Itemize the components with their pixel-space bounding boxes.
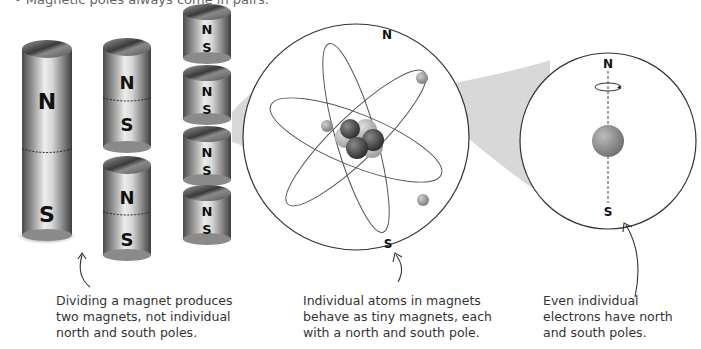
small-4-south-label: S [202, 222, 211, 237]
long-magnet: N S [16, 40, 76, 244]
long-magnet-south-label: S [39, 202, 55, 227]
small-3-south-label: S [202, 163, 211, 178]
atom-north-label: N [382, 28, 392, 42]
small-3-north-label: N [202, 145, 213, 160]
split-bottom-south-label: S [121, 229, 134, 250]
arrow-magnet-icon [80, 255, 90, 287]
caption-magnet: Dividing a magnet produces two magnets, … [56, 293, 256, 341]
electron-icon [321, 120, 333, 132]
arrow-atom-icon [396, 255, 402, 282]
atom-magnified-view: N S [243, 24, 469, 251]
electron-icon [592, 125, 624, 157]
small-1-south-label: S [202, 40, 211, 55]
small-magnet-3: N S [183, 126, 231, 186]
small-2-south-label: S [202, 102, 211, 117]
split-top-south-label: S [121, 114, 134, 135]
small-magnet-4: N S [183, 185, 231, 245]
small-2-north-label: N [202, 84, 213, 99]
electron-south-label: S [604, 205, 613, 219]
small-magnet-2: N S [183, 65, 231, 125]
split-magnet-top: N S [103, 38, 151, 153]
electron-icon [417, 194, 429, 206]
split-bottom-north-label: N [119, 187, 134, 208]
caption-atom: Individual atoms in magnets behave as ti… [303, 293, 513, 341]
small-4-north-label: N [202, 204, 213, 219]
small-magnet-1: N S [183, 4, 231, 64]
electron-magnified-view: N S [520, 53, 696, 229]
arrow-electron-icon [626, 225, 638, 297]
atom-south-label: S [384, 237, 393, 251]
small-1-north-label: N [202, 22, 213, 37]
split-top-north-label: N [119, 72, 134, 93]
electron-icon [416, 72, 428, 84]
split-magnet-bottom: N S [103, 156, 151, 261]
electron-north-label: N [603, 57, 613, 71]
caption-electron: Even individual electrons have north and… [543, 293, 673, 341]
long-magnet-north-label: N [38, 89, 56, 114]
